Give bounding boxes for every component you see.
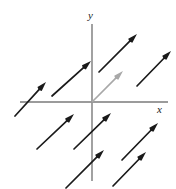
vector-arrowhead: [128, 34, 137, 43]
vector-lower-left: [37, 114, 74, 149]
vector-arrowhead: [137, 152, 146, 161]
vector-lower-mid-lower: [66, 150, 104, 188]
vector-field-canvas: [0, 0, 176, 189]
vector-arrowhead: [114, 71, 123, 80]
vector-upper-mid-left: [52, 61, 91, 96]
vector-shaft: [66, 155, 99, 188]
vector-arrowhead: [102, 113, 111, 122]
vector-shaft: [74, 118, 106, 149]
vector-upper-left: [15, 82, 46, 116]
vector-far-lower-right: [113, 152, 146, 186]
vector-arrowhead: [65, 114, 74, 123]
vector-shaft: [37, 119, 69, 149]
axes-group: [20, 24, 168, 181]
vector-arrowhead: [37, 82, 46, 91]
vector-shaft: [137, 56, 166, 86]
vector-shaft: [92, 76, 118, 102]
vector-field-figure: x y: [0, 0, 176, 189]
vector-arrowhead: [95, 150, 104, 159]
vector-arrowhead: [82, 61, 91, 70]
vector-shaft: [122, 128, 153, 160]
y-axis-label: y: [88, 10, 93, 21]
vector-shaft: [52, 66, 86, 96]
vector-upper-right: [137, 51, 171, 86]
vector-upper-mid-right: [99, 34, 137, 72]
vector-arrowhead: [162, 51, 171, 60]
vector-shaft: [113, 157, 141, 186]
x-axis-label: x: [157, 104, 162, 115]
vector-origin-highlight: [92, 71, 123, 102]
vector-arrowhead: [149, 123, 158, 132]
vector-lower-right: [122, 123, 158, 160]
vectors-group: [15, 34, 171, 188]
vector-shaft: [99, 39, 132, 72]
